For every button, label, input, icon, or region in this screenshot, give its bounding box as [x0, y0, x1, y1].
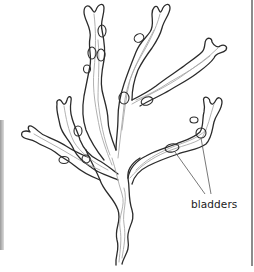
bladders-label: bladders: [191, 198, 237, 210]
branch-right-lower: [128, 97, 222, 184]
leader-line-bladder-upper: [201, 138, 211, 194]
branch-left-mid: [57, 97, 118, 180]
midrib-center-right: [118, 14, 160, 158]
bladder: [190, 117, 198, 123]
branch-center-right: [116, 4, 170, 150]
bladder: [97, 49, 105, 61]
bladder: [133, 32, 146, 44]
seaweed-illustration: [0, 0, 254, 272]
midrib-center-right-2: [122, 30, 154, 130]
leader-line-bladder-lower: [175, 152, 205, 194]
midrib-right-upper-2: [136, 56, 210, 100]
midrib-right-upper: [132, 48, 218, 104]
bladder: [88, 47, 96, 59]
branch-center-left: [83, 4, 116, 160]
midrib-left-mid: [64, 106, 108, 170]
